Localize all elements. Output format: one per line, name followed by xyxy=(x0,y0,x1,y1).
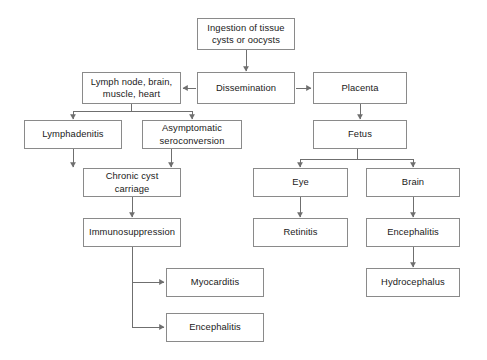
node-retinitis[interactable]: Retinitis xyxy=(253,218,348,247)
node-retinitis-label: Retinitis xyxy=(283,226,317,238)
node-placenta[interactable]: Placenta xyxy=(313,72,407,104)
node-myocarditis[interactable]: Myocarditis xyxy=(166,268,264,297)
node-dissemination-label: Dissemination xyxy=(216,82,276,94)
node-encephalitis-brain[interactable]: Encephalitis xyxy=(366,218,460,247)
node-ingestion-label: Ingestion of tissue cysts or oocysts xyxy=(207,22,284,47)
node-chronic-cyst-carriage[interactable]: Chronic cyst carriage xyxy=(83,168,181,197)
node-hydrocephalus[interactable]: Hydrocephalus xyxy=(366,268,460,297)
node-immunosuppression[interactable]: Immunosuppression xyxy=(83,218,181,247)
node-lymph-node[interactable]: Lymph node, brain, muscle, heart xyxy=(82,72,181,104)
node-myocarditis-label: Myocarditis xyxy=(191,276,239,288)
node-encephalitis-brain-label: Encephalitis xyxy=(387,226,439,238)
node-dissemination[interactable]: Dissemination xyxy=(197,72,295,104)
node-eye[interactable]: Eye xyxy=(253,168,348,197)
node-brain-label: Brain xyxy=(402,176,424,188)
node-lymphadenitis-label: Lymphadenitis xyxy=(42,128,103,140)
node-asymptomatic-seroconversion-label: Asymptomatic seroconversion xyxy=(160,122,225,147)
node-brain[interactable]: Brain xyxy=(366,168,460,197)
node-ingestion[interactable]: Ingestion of tissue cysts or oocysts xyxy=(197,18,295,50)
node-eye-label: Eye xyxy=(292,176,308,188)
node-immunosuppression-label: Immunosuppression xyxy=(89,226,175,238)
node-lymph-node-label: Lymph node, brain, muscle, heart xyxy=(91,76,173,101)
node-placenta-label: Placenta xyxy=(341,82,378,94)
node-encephalitis-immunosuppression[interactable]: Encephalitis xyxy=(166,313,264,342)
node-encephalitis-immunosuppression-label: Encephalitis xyxy=(189,321,241,333)
node-chronic-cyst-carriage-label: Chronic cyst carriage xyxy=(106,170,159,195)
node-asymptomatic-seroconversion[interactable]: Asymptomatic seroconversion xyxy=(142,120,242,149)
node-fetus-label: Fetus xyxy=(348,128,372,140)
node-lymphadenitis[interactable]: Lymphadenitis xyxy=(24,120,122,149)
node-fetus[interactable]: Fetus xyxy=(313,120,407,149)
node-hydrocephalus-label: Hydrocephalus xyxy=(381,276,445,288)
flowchart-diagram: Ingestion of tissue cysts or oocysts Lym… xyxy=(0,0,487,360)
